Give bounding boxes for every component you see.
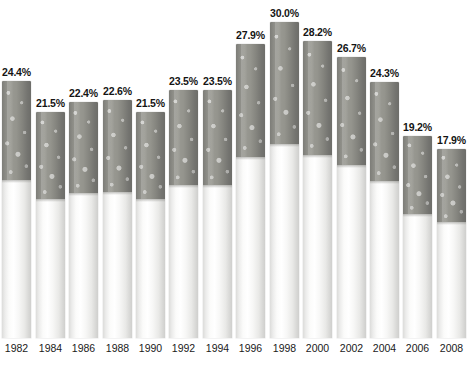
cigarette-bar: [103, 100, 132, 338]
x-axis-labels: 1982198419861988199019921994199619982000…: [0, 340, 468, 369]
cigarette-bar: [236, 44, 265, 338]
cigarette-bar: [36, 112, 65, 338]
cigarette-paper-section: [69, 193, 98, 338]
plot-area: 24.4%21.5%22.4%22.6%21.5%23.5%23.5%27.9%…: [0, 0, 468, 338]
cigarette-tobacco-section: [103, 100, 132, 192]
cigarette-tobacco-section: [236, 44, 265, 157]
value-label-2002: 26.7%: [330, 42, 373, 54]
cigarette-paper-section: [2, 180, 31, 338]
cigarette-bar: [437, 149, 466, 338]
cigarette-tobacco-section: [169, 90, 198, 185]
bar-2000: [303, 0, 332, 338]
cigarette-paper-section: [236, 157, 265, 338]
value-label-2004: 24.3%: [363, 67, 406, 79]
bar-1984: [36, 0, 65, 338]
cigarette-paper-section: [370, 181, 399, 338]
cigarette-paper-section: [136, 199, 165, 338]
cigarette-bar: [136, 112, 165, 338]
value-label-1996: 27.9%: [229, 29, 272, 41]
cigarette-bar: [303, 41, 332, 338]
value-label-1988: 22.6%: [96, 85, 139, 97]
x-tick-label-2008: 2008: [431, 342, 468, 355]
cigarette-tobacco-section: [437, 149, 466, 222]
value-label-2006: 19.2%: [396, 121, 439, 133]
bar-1988: [103, 0, 132, 338]
cigarette-bar: [69, 102, 98, 338]
cigarette-tobacco-section: [203, 90, 232, 185]
bar-1990: [136, 0, 165, 338]
value-label-2000: 28.2%: [296, 26, 339, 38]
value-label-1994: 23.5%: [196, 75, 239, 87]
cigarette-bar: [337, 57, 366, 338]
cigarette-tobacco-section: [370, 82, 399, 181]
value-label-1998: 30.0%: [263, 7, 306, 19]
cigarette-bar: [169, 90, 198, 338]
cigarette-tobacco-section: [403, 136, 432, 214]
cigarette-paper-section: [103, 192, 132, 338]
cigarette-paper-section: [437, 222, 466, 338]
bar-2006: [403, 0, 432, 338]
cigarette-bar: [2, 81, 31, 338]
cigarette-tobacco-section: [136, 112, 165, 199]
cigarette-tobacco-section: [69, 102, 98, 193]
value-label-2008: 17.9%: [430, 134, 468, 146]
cigarette-tobacco-section: [2, 81, 31, 180]
bar-1998: [270, 0, 299, 338]
bar-2004: [370, 0, 399, 338]
cigarette-bar: [270, 22, 299, 338]
cigarette-paper-section: [270, 144, 299, 338]
cigarette-paper-section: [337, 165, 366, 338]
cigarette-bar: [370, 82, 399, 338]
bar-1994: [203, 0, 232, 338]
bar-1982: [2, 0, 31, 338]
cigarette-paper-section: [169, 185, 198, 338]
cigarette-paper-section: [303, 155, 332, 338]
cigarette-tobacco-section: [303, 41, 332, 155]
cigarette-bar-chart: 24.4%21.5%22.4%22.6%21.5%23.5%23.5%27.9%…: [0, 0, 468, 369]
cigarette-paper-section: [36, 199, 65, 338]
value-label-1990: 21.5%: [129, 97, 172, 109]
cigarette-paper-section: [203, 185, 232, 338]
cigarette-bar: [403, 136, 432, 338]
bar-1986: [69, 0, 98, 338]
bar-1996: [236, 0, 265, 338]
cigarette-paper-section: [403, 214, 432, 338]
bar-2008: [437, 0, 466, 338]
cigarette-tobacco-section: [36, 112, 65, 199]
value-label-1982: 24.4%: [0, 66, 38, 78]
cigarette-tobacco-section: [337, 57, 366, 165]
cigarette-bar: [203, 90, 232, 338]
bar-1992: [169, 0, 198, 338]
cigarette-tobacco-section: [270, 22, 299, 144]
